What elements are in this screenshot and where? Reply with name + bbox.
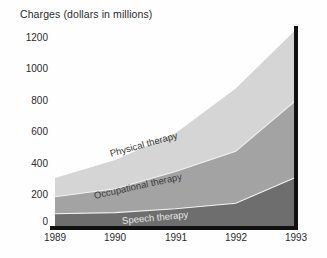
y-tick-800: 800 [31, 95, 48, 106]
x-tick-1993: 1993 [285, 232, 307, 243]
plot-area [55, 26, 296, 226]
y-tick-1200: 1200 [26, 32, 48, 43]
x-tick-1992: 1992 [225, 232, 247, 243]
y-tick-200: 200 [31, 189, 48, 200]
right-axis-line [294, 26, 298, 230]
y-tick-0: 0 [42, 216, 48, 227]
x-tick-1989: 1989 [44, 232, 66, 243]
y-tick-600: 600 [31, 126, 48, 137]
stacked-area-svg [55, 26, 296, 226]
y-tick-1000: 1000 [26, 63, 48, 74]
x-tick-1991: 1991 [165, 232, 187, 243]
chart-figure: Charges (dollars in millions) 1200 1000 … [0, 0, 327, 258]
y-axis-tick-labels: 1200 1000 800 600 400 200 0 [0, 0, 48, 258]
x-tick-1990: 1990 [104, 232, 126, 243]
y-tick-400: 400 [31, 158, 48, 169]
x-axis-line [50, 226, 298, 230]
